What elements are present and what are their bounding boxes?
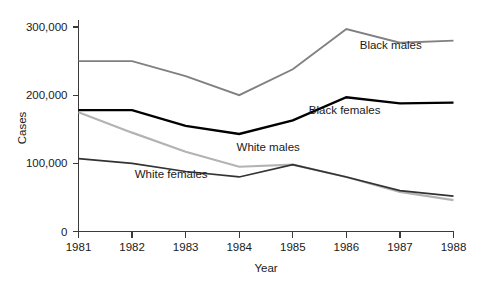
x-tick-label: 1986	[334, 241, 360, 253]
y-tick-label: 0	[61, 226, 67, 238]
series-label-black-females: Black females	[309, 104, 381, 116]
x-tick-label: 1985	[280, 241, 306, 253]
x-tick-label: 1984	[226, 241, 252, 253]
x-tick-label: 1981	[66, 241, 92, 253]
y-tick-label: 300,000	[26, 21, 68, 33]
series-line-black-females	[79, 97, 454, 134]
x-tick-label: 1988	[441, 241, 467, 253]
x-tick-label: 1982	[119, 241, 145, 253]
series-label-white-females: White females	[135, 168, 208, 180]
series-label-black-males: Black males	[360, 39, 422, 51]
x-axis-ticks: 19811982198319841985198619871988	[66, 232, 467, 253]
y-axis-title: Cases	[16, 111, 28, 144]
series-line-white-males	[79, 112, 454, 200]
y-tick-label: 100,000	[26, 157, 68, 169]
y-axis-ticks: 0100,000200,000300,000	[26, 21, 79, 238]
plot-axes	[79, 20, 455, 232]
x-axis-title: Year	[254, 262, 277, 274]
y-tick-label: 200,000	[26, 89, 68, 101]
x-tick-label: 1983	[173, 241, 199, 253]
chart-page: 0100,000200,000300,000 19811982198319841…	[0, 0, 495, 283]
x-tick-label: 1987	[387, 241, 413, 253]
series-labels-group: Black malesBlack femalesWhite malesWhite…	[135, 39, 422, 181]
series-label-white-males: White males	[237, 141, 301, 153]
line-chart: 0100,000200,000300,000 19811982198319841…	[0, 0, 495, 283]
